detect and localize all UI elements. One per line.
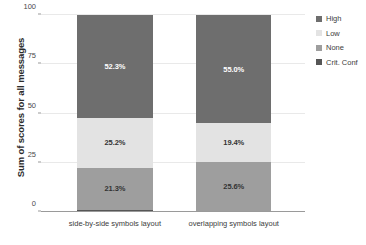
bar-segment-label: 21.3%: [105, 184, 126, 193]
y-axis-title: Sum of scores for all messages: [15, 8, 26, 208]
x-tick-label: side-by-side symbols layout: [69, 219, 161, 228]
bar[interactable]: 25.6%19.4%55.0%: [196, 15, 271, 212]
bar-segment-label: 19.4%: [223, 138, 244, 147]
x-tick-label: overlapping symbols layout: [188, 219, 278, 228]
y-tick-mark: [38, 112, 41, 113]
y-tick-label: 0: [32, 199, 36, 208]
legend-label: None: [326, 43, 344, 52]
legend: HighLowNoneCrit. Conf: [316, 14, 358, 67]
y-tick-mark: [38, 63, 41, 64]
y-tick-label: 25: [28, 149, 36, 158]
y-tick-mark: [38, 161, 41, 162]
legend-item[interactable]: High: [316, 14, 358, 23]
legend-label: High: [326, 14, 341, 23]
bar[interactable]: 21.3%25.2%52.3%: [77, 15, 152, 212]
bar-segment-label: 55.0%: [223, 65, 244, 74]
bar-segment-label: 25.6%: [223, 182, 244, 191]
x-axis-line: [41, 211, 305, 212]
y-tick-mark: [38, 14, 41, 15]
bar-segment[interactable]: 25.2%: [77, 118, 152, 168]
legend-label: Crit. Conf: [326, 58, 358, 67]
legend-swatch-icon: [316, 59, 322, 65]
bar-segment[interactable]: 52.3%: [77, 15, 152, 118]
legend-item[interactable]: Low: [316, 29, 358, 38]
legend-item[interactable]: None: [316, 43, 358, 52]
stacked-bar-chart: Sum of scores for all messages 025507510…: [0, 0, 366, 245]
bar-segment[interactable]: 19.4%: [196, 123, 271, 161]
bar-segment[interactable]: 55.0%: [196, 15, 271, 123]
bar-segment-label: 25.2%: [105, 138, 126, 147]
y-tick-label: 75: [28, 51, 36, 60]
bar-segment[interactable]: 25.6%: [196, 162, 271, 212]
y-tick-label: 100: [23, 2, 36, 11]
legend-item[interactable]: Crit. Conf: [316, 58, 358, 67]
bar-segment-label: 52.3%: [105, 62, 126, 71]
plot-area: 0255075100 21.3%25.2%52.3%25.6%19.4%55.0…: [41, 15, 305, 212]
y-tick-label: 50: [28, 100, 36, 109]
legend-swatch-icon: [316, 16, 322, 22]
bar-segment[interactable]: 21.3%: [77, 168, 152, 210]
legend-swatch-icon: [316, 45, 322, 51]
legend-swatch-icon: [316, 30, 322, 36]
legend-label: Low: [326, 29, 340, 38]
